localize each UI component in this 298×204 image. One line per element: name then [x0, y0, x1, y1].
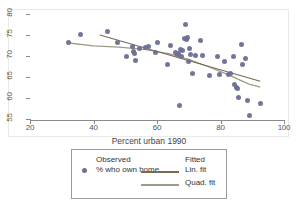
scatter-point — [245, 98, 250, 103]
scatter-point — [193, 53, 198, 58]
y-axis-tick-label: 60 — [5, 86, 14, 108]
x-axis-tick-label: 20 — [18, 123, 42, 132]
x-axis-tick-label: 60 — [145, 123, 169, 132]
legend-marker-observed — [82, 168, 87, 173]
legend-header-fitted: Fitted — [185, 155, 205, 164]
fit-lines-layer — [30, 14, 284, 119]
scatter-point — [179, 54, 184, 59]
scatter-plot-figure: 556065707580 20406080100 Percent urban 1… — [0, 0, 298, 204]
scatter-point — [78, 32, 83, 37]
scatter-point — [207, 73, 212, 78]
x-axis-title: Percent urban 1990 — [0, 136, 298, 146]
scatter-point — [235, 86, 240, 91]
legend-swatch-quad-fit — [141, 184, 179, 186]
scatter-point — [185, 35, 190, 40]
y-axis-tick-label: 70 — [5, 44, 14, 66]
scatter-point — [200, 53, 205, 58]
legend-label-quad-fit: Quad. fit — [185, 178, 215, 187]
scatter-point — [186, 59, 191, 64]
plot-area — [30, 14, 284, 119]
x-axis-tick-label: 40 — [82, 123, 106, 132]
chart-legend: Observed Fitted % who own home Lin. fit … — [71, 149, 227, 199]
legend-header-observed: Observed — [96, 155, 131, 164]
scatter-point — [240, 62, 245, 67]
y-axis-tick-label: 65 — [5, 65, 14, 87]
scatter-point — [137, 46, 142, 51]
y-axis-tick-label: 55 — [5, 107, 14, 129]
scatter-point — [124, 54, 129, 59]
y-axis-tick-label: 80 — [5, 2, 14, 24]
scatter-point — [190, 71, 195, 76]
legend-swatch-lin-fit — [141, 171, 179, 173]
scatter-point — [146, 44, 151, 49]
y-axis-tick-label: 75 — [5, 23, 14, 45]
scatter-point — [247, 113, 252, 118]
scatter-point — [133, 58, 138, 63]
scatter-point — [165, 62, 170, 67]
legend-label-lin-fit: Lin. fit — [185, 165, 206, 174]
x-axis-tick-label: 100 — [272, 123, 296, 132]
legend-label-observed: % who own home — [96, 165, 159, 174]
scatter-point — [215, 54, 220, 59]
scatter-point — [183, 22, 188, 27]
x-axis-tick-label: 80 — [209, 123, 233, 132]
